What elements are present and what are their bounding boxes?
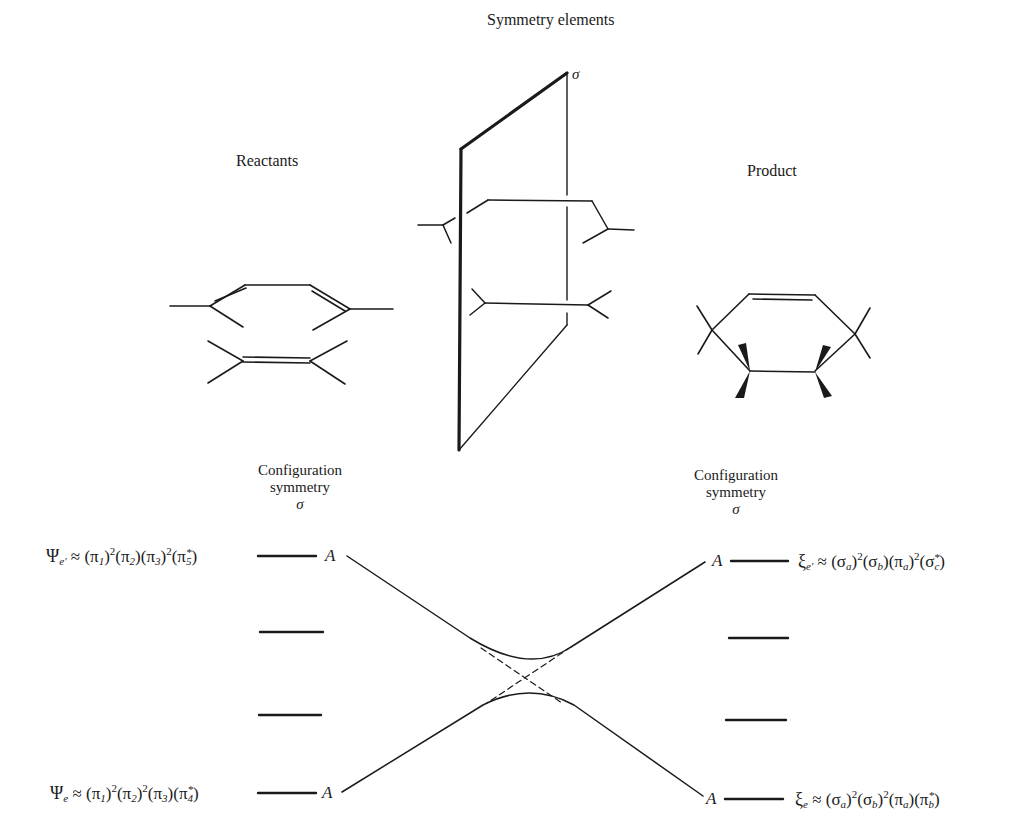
symmetry-A-right-upper: A <box>712 552 722 569</box>
orbital-term: (σb)2 <box>857 790 889 809</box>
config-line2: symmetry <box>240 479 360 496</box>
orbital-term: (π3)2 <box>141 547 172 566</box>
plane-butadiene <box>418 200 634 243</box>
reactants-label: Reactants <box>236 153 298 169</box>
state-subscript: e′ <box>806 560 813 572</box>
formula-xi-e-prime: ξe′ ≈ (σa)2(σb)(πa)2(σc*) <box>798 550 945 572</box>
orbital-subscript: b* <box>928 798 934 810</box>
orbital-subscript: a <box>903 798 909 810</box>
config-symmetry-left: Configuration symmetry σ <box>240 462 360 513</box>
orbital-term: (πa) <box>889 790 914 809</box>
orbital-term: (σc*) <box>920 552 945 571</box>
formula-psi-e-prime: Ψe′ ≈ (π1)2(π2)(π3)2(π5*) <box>46 545 197 567</box>
orbital-term: (σa)2 <box>826 790 858 809</box>
config-line2: symmetry <box>676 484 796 501</box>
config-line1: Configuration <box>676 467 796 484</box>
orbital-subscript: a <box>846 560 852 572</box>
orbital-subscript: a <box>903 560 909 572</box>
antibonding-star: * <box>188 783 194 795</box>
state-subscript: e′ <box>59 555 66 567</box>
orbital-term: (π2) <box>115 547 140 566</box>
occupancy-superscript: 2 <box>883 788 889 800</box>
formula-psi-e: Ψe ≈ (π1)2(π2)2(π3)(π4*) <box>50 782 199 804</box>
orbital-term: (σb) <box>863 552 889 571</box>
symmetry-A-right-lower: A <box>706 790 716 807</box>
orbital-term: (π4*) <box>173 784 198 803</box>
orbital-subscript: 2 <box>130 555 136 567</box>
reactant-ethylene <box>208 341 347 384</box>
lower-avoided-crossing <box>342 693 703 796</box>
symmetry-A-left-lower: A <box>322 784 332 801</box>
occupancy-superscript: 2 <box>914 550 920 562</box>
config-line3: σ <box>240 496 360 513</box>
antibonding-star: * <box>934 551 940 563</box>
energy-levels <box>258 556 788 799</box>
orbital-subscript: b <box>872 798 878 810</box>
state-symbol: ξ <box>798 551 806 571</box>
orbital-term: (π5*) <box>172 547 197 566</box>
symmetry-A-left-upper: A <box>325 547 335 564</box>
state-subscript: e <box>63 792 68 804</box>
diagram-title: Symmetry elements <box>487 12 615 28</box>
config-symmetry-right: Configuration symmetry σ <box>676 467 796 518</box>
orbital-subscript: 3 <box>162 792 168 804</box>
orbital-subscript: 3 <box>155 555 161 567</box>
orbital-term: (π3) <box>148 784 173 803</box>
orbital-subscript: a <box>841 798 847 810</box>
orbital-subscript: c* <box>934 560 939 572</box>
orbital-term: (π2)2 <box>117 784 148 803</box>
diabatic-crossing-dashed <box>481 647 571 703</box>
formula-xi-e: ξe ≈ (σa)2(σb)2(πa)(πb*) <box>795 788 940 810</box>
symmetry-plane-sigma <box>459 73 567 450</box>
orbital-term: (πa)2 <box>889 552 920 571</box>
state-symbol: Ψ <box>46 546 59 566</box>
orbital-subscript: 5* <box>186 555 192 567</box>
orbital-subscript: 4* <box>188 792 194 804</box>
product-label: Product <box>747 163 797 179</box>
orbital-subscript: 2 <box>131 792 137 804</box>
orbital-subscript: 1 <box>99 555 105 567</box>
product-cyclohexene <box>697 294 870 372</box>
orbital-subscript: b <box>878 560 884 572</box>
orbital-term: (π1)2 <box>84 547 115 566</box>
orbital-subscript: 1 <box>100 792 106 804</box>
config-line1: Configuration <box>240 462 360 479</box>
occupancy-superscript: 2 <box>857 550 863 562</box>
upper-avoided-crossing <box>347 556 705 659</box>
state-subscript: e <box>803 798 808 810</box>
antibonding-star: * <box>928 789 934 801</box>
orbital-term: (π1)2 <box>86 784 117 803</box>
plane-ethylene <box>470 289 611 318</box>
reactant-butadiene <box>170 285 393 330</box>
sigma-plane-label: σ <box>572 67 579 82</box>
config-line3: σ <box>676 501 796 518</box>
occupancy-superscript: 2 <box>166 545 172 557</box>
orbital-term: (σa)2 <box>831 552 863 571</box>
antibonding-star: * <box>186 546 192 558</box>
correlation-curves <box>342 556 705 796</box>
state-symbol: ξ <box>795 789 803 809</box>
orbital-term: (πb*) <box>914 790 939 809</box>
correlation-diagram-art <box>0 0 1035 840</box>
state-symbol: Ψ <box>50 783 63 803</box>
